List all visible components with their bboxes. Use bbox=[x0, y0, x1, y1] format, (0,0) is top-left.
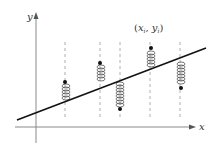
data-point bbox=[179, 86, 183, 90]
spring bbox=[116, 82, 124, 107]
spring bbox=[97, 65, 105, 81]
regression-line bbox=[17, 48, 206, 120]
data-points bbox=[63, 46, 183, 111]
y-axis-label: y bbox=[26, 11, 33, 22]
spring bbox=[62, 84, 70, 100]
point-label: (xi, yi) bbox=[134, 22, 163, 34]
x-axis-arrow-icon bbox=[189, 125, 196, 130]
least-squares-spring-diagram: y x (xi, yi) bbox=[0, 0, 222, 151]
spring bbox=[147, 51, 155, 67]
data-point bbox=[98, 61, 102, 65]
point-label-close: ) bbox=[159, 22, 163, 33]
data-point bbox=[63, 80, 67, 84]
x-axis-label: x bbox=[199, 121, 205, 132]
spring bbox=[177, 62, 185, 84]
y-axis-arrow-icon bbox=[34, 12, 39, 19]
data-point bbox=[118, 107, 122, 111]
data-point bbox=[149, 46, 153, 50]
